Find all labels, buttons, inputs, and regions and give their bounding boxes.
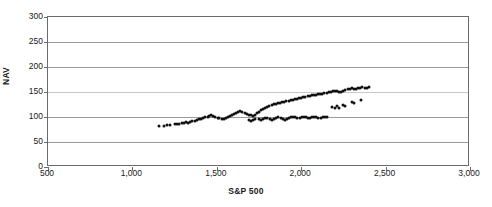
gridline-y-150 xyxy=(48,92,468,93)
data-point xyxy=(325,116,328,119)
y-tick-200 xyxy=(44,67,48,68)
x-tick-label-2000: 2,000 xyxy=(290,168,311,178)
data-point xyxy=(169,123,172,126)
gridline-y-250 xyxy=(48,42,468,43)
x-tick-label-500: 500 xyxy=(40,168,54,178)
y-tick-label-250: 250 xyxy=(29,36,43,46)
data-point xyxy=(157,125,160,128)
gridline-y-200 xyxy=(48,67,468,68)
y-tick-300 xyxy=(44,17,48,18)
y-tick-250 xyxy=(44,42,48,43)
data-point xyxy=(359,99,362,102)
data-point xyxy=(338,106,341,109)
data-point xyxy=(352,102,355,105)
x-tick-label-1500: 1,500 xyxy=(205,168,226,178)
y-tick-label-50: 50 xyxy=(34,136,43,146)
y-tick-50 xyxy=(44,142,48,143)
y-axis-tick-labels: 050100150200250300 xyxy=(0,16,43,166)
plot-area xyxy=(47,16,469,166)
data-point xyxy=(344,104,347,107)
data-point xyxy=(263,116,266,119)
x-tick-label-3000: 3,000 xyxy=(458,168,479,178)
y-tick-100 xyxy=(44,117,48,118)
scatter-chart: NAV 050100150200250300 5001,0001,5002,00… xyxy=(0,0,492,207)
y-tick-label-150: 150 xyxy=(29,86,43,96)
y-tick-150 xyxy=(44,92,48,93)
data-point xyxy=(254,117,257,120)
x-axis-title: S&P 500 xyxy=(0,186,492,196)
x-tick-label-1000: 1,000 xyxy=(121,168,142,178)
x-tick-label-2500: 2,500 xyxy=(374,168,395,178)
y-tick-label-100: 100 xyxy=(29,111,43,121)
gridline-y-50 xyxy=(48,142,468,143)
data-point xyxy=(367,86,370,89)
x-axis-tick-labels: 5001,0001,5002,0002,5003,000 xyxy=(47,168,469,184)
y-tick-label-200: 200 xyxy=(29,61,43,71)
y-tick-label-300: 300 xyxy=(29,11,43,21)
